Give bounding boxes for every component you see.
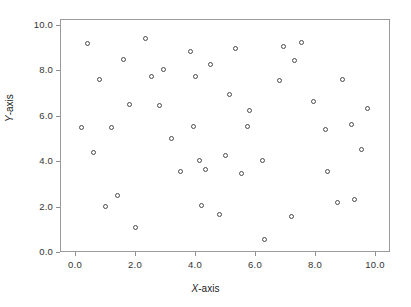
y-axis-label: Y-axis (4, 94, 15, 122)
y-axis-tick-mark (56, 70, 60, 71)
x-axis-tick-mark (375, 252, 376, 256)
y-axis-label-variable: Y (4, 115, 15, 122)
y-axis-tick-mark (56, 161, 60, 162)
x-axis-tick-mark (135, 252, 136, 256)
y-axis-tick-mark (56, 252, 60, 253)
x-axis-tick-label: 6.0 (235, 259, 275, 270)
y-axis-label-suffix: -axis (4, 94, 15, 115)
x-axis-label-suffix: -axis (198, 283, 219, 294)
y-axis-tick-mark (56, 116, 60, 117)
x-axis-tick-label: 4.0 (175, 259, 215, 270)
x-axis-tick-mark (75, 252, 76, 256)
y-axis-tick-label: 0.0 (13, 246, 53, 257)
x-axis-tick-label: 2.0 (115, 259, 155, 270)
x-axis-tick-mark (255, 252, 256, 256)
y-axis-tick-mark (56, 25, 60, 26)
y-axis-tick-label: 8.0 (13, 64, 53, 75)
y-axis-tick-label: 2.0 (13, 201, 53, 212)
x-axis-tick-mark (195, 252, 196, 256)
x-axis-label: X-axis (0, 283, 411, 294)
y-axis-tick-label: 6.0 (13, 110, 53, 121)
x-axis-tick-mark (315, 252, 316, 256)
y-axis-tick-mark (56, 207, 60, 208)
x-axis-tick-label: 10.0 (355, 259, 395, 270)
y-axis-tick-label: 4.0 (13, 155, 53, 166)
x-axis-tick-label: 8.0 (295, 259, 335, 270)
plot-frame (60, 19, 390, 252)
y-axis-tick-label: 10.0 (13, 19, 53, 30)
scatter-plot-figure: 0.02.04.06.08.010.00.02.04.06.08.010.0 X… (0, 0, 411, 307)
x-axis-tick-label: 0.0 (55, 259, 95, 270)
